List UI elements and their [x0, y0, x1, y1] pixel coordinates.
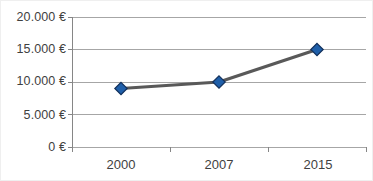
data-point-2007	[213, 76, 225, 88]
line-chart: 20.000 € 15.000 € 10.000 € 5.000 € 0 € 2…	[0, 0, 373, 181]
x-axis-ticks	[72, 147, 366, 152]
plot-area	[0, 0, 373, 181]
data-point-2000	[115, 82, 127, 94]
data-point-2015	[311, 43, 323, 55]
y-axis-ticks	[68, 17, 72, 147]
